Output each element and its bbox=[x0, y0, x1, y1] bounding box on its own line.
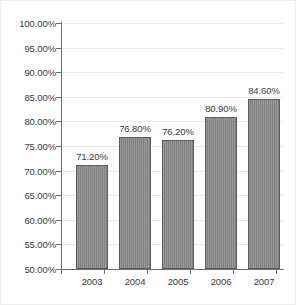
y-tick-label: 90.00% bbox=[24, 67, 56, 78]
x-tick-mark bbox=[104, 269, 105, 274]
x-tick-label-2005: 2005 bbox=[168, 276, 189, 287]
x-tick-mark bbox=[147, 269, 148, 274]
bar-2007 bbox=[248, 99, 280, 269]
bar-chart: 100.00% 95.00% 90.00% 85.00% 80.00% 75.0… bbox=[0, 0, 296, 305]
y-tick-mark bbox=[56, 171, 61, 172]
y-axis-line bbox=[61, 22, 62, 270]
x-axis-line bbox=[61, 269, 284, 270]
x-tick-label-2007: 2007 bbox=[254, 276, 275, 287]
y-tick-mark bbox=[56, 121, 61, 122]
gridline bbox=[61, 97, 284, 98]
y-tick-mark bbox=[56, 244, 61, 245]
bar-2004 bbox=[119, 137, 151, 269]
data-label-2004: 76.80% bbox=[119, 123, 151, 134]
y-tick-mark bbox=[56, 97, 61, 98]
bar-2005 bbox=[162, 140, 194, 269]
x-tick-label-2006: 2006 bbox=[211, 276, 232, 287]
data-label-2003: 71.20% bbox=[76, 151, 108, 162]
data-label-2007: 84.60% bbox=[248, 85, 280, 96]
gridline bbox=[61, 48, 284, 49]
bar-2006 bbox=[205, 117, 237, 269]
x-tick-mark bbox=[233, 269, 234, 274]
x-tick-mark bbox=[276, 269, 277, 274]
x-tick-label-2003: 2003 bbox=[82, 276, 103, 287]
y-tick-label: 75.00% bbox=[24, 141, 56, 152]
y-tick-label: 85.00% bbox=[24, 91, 56, 102]
y-tick-mark bbox=[56, 195, 61, 196]
y-tick-mark bbox=[56, 220, 61, 221]
y-tick-label: 100.00% bbox=[19, 18, 56, 29]
y-tick-label: 60.00% bbox=[24, 214, 56, 225]
y-tick-mark bbox=[56, 48, 61, 49]
x-tick-label-2004: 2004 bbox=[125, 276, 146, 287]
x-tick-mark bbox=[61, 269, 62, 274]
y-tick-mark bbox=[56, 72, 61, 73]
y-tick-label: 50.00% bbox=[24, 264, 56, 275]
y-tick-label: 55.00% bbox=[24, 239, 56, 250]
data-label-2006: 80.90% bbox=[205, 103, 237, 114]
x-tick-mark bbox=[190, 269, 191, 274]
y-tick-mark bbox=[56, 146, 61, 147]
y-tick-label: 95.00% bbox=[24, 42, 56, 53]
bar-2003 bbox=[76, 165, 108, 269]
plot-area bbox=[61, 23, 284, 269]
y-tick-mark bbox=[56, 23, 61, 24]
gridline bbox=[61, 23, 284, 24]
gridline bbox=[61, 72, 284, 73]
data-label-2005: 76.20% bbox=[162, 126, 194, 137]
y-tick-label: 65.00% bbox=[24, 190, 56, 201]
y-tick-label: 80.00% bbox=[24, 116, 56, 127]
y-tick-label: 70.00% bbox=[24, 165, 56, 176]
